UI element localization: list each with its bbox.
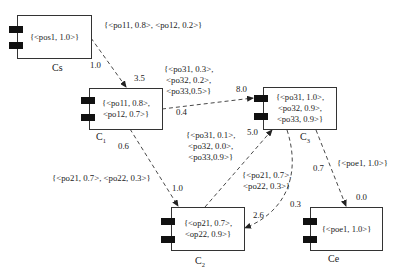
port-icon [303,218,317,225]
edge-c2-c3-to-weight: 5.0 [247,127,258,138]
edge-c3-c2-from-weight: 0.3 [290,199,301,210]
edge-c1-c2-annotation: {<po21, 0.7>, <po22, 0.3>} [52,173,151,184]
port-icon [9,26,23,33]
edge-cs-c1-annotation: {<po11, 0.8>, <po12, 0.2>} [104,20,202,31]
port-icon [81,114,95,121]
component-sub: 2 [202,261,205,268]
component-c1[interactable]: {<po11, 0.8>, <po12, 0.7>} [89,88,163,130]
annotation-line: <po22, 0.3>} [242,181,291,192]
edge-cs-c1-to-weight: 3.5 [134,73,145,84]
port-icon [81,97,95,104]
component-sub: 1 [103,137,106,144]
annotation-line: <po33,0.5>} [164,86,213,97]
component-name: C [300,131,307,142]
edge-c3-ce-annotation: {<poe1, 1.0>} [337,158,388,169]
component-c3-line3: <po33, 0.9>} [277,114,323,125]
port-icon [303,236,317,243]
component-sub: 3 [307,137,310,144]
component-c2-line2: <op22, 0.9>} [185,229,231,240]
edge-c2-c3-annotation: {<po31, 0.1>, <po32, 0.0>, <po33,0.9>} [186,130,235,163]
edge-c3-ce-from-weight: 0.7 [313,163,324,174]
edge-c3-ce-to-weight: 0.0 [356,192,367,203]
component-cs-label: Cs [52,62,63,73]
edge-c1-c3-from-weight: 0.4 [176,107,187,118]
component-c2-line1: {<op21, 0.7>, [184,218,232,229]
edge-c3-c2-annotation: {<po21, 0.7>, <po22, 0.3>} [242,170,291,192]
port-icon [254,95,268,102]
component-cs-content: {<pos1, 1.0>} [30,32,79,43]
component-cs[interactable]: {<pos1, 1.0>} [17,15,92,59]
component-c3-label: C3 [300,131,310,144]
component-c3-line2: <po32, 0.9>, [278,103,322,114]
component-c2[interactable]: {<op21, 0.7>, <op22, 0.9>} [171,207,245,251]
edge-c1-c3-annotation: {<po31, 0.3>, <po32, 0.2>, <po33,0.5>} [164,64,213,97]
component-c1-line1: {<po11, 0.8>, [102,98,150,109]
component-c1-line2: <po12, 0.7>} [103,109,149,120]
component-c2-label: C2 [195,255,205,268]
port-icon [9,42,23,49]
component-c3-line1: {<po31, 1.0>, [276,92,324,103]
component-c3[interactable]: {<po31, 1.0>, <po32, 0.9>, <po33, 0.9>} [263,87,337,130]
annotation-line: {<po31, 0.3>, [164,64,213,75]
port-icon [254,113,268,120]
component-name: Cs [52,62,63,73]
annotation-line: {<po31, 0.1>, [186,130,235,141]
edge-c1-c2-to-weight: 1.0 [172,183,183,194]
edge-c3-c2-to-weight: 2.6 [253,210,264,221]
port-icon [161,236,175,243]
component-name: C [195,255,202,266]
edge-c1-c3-to-weight: 8.0 [236,84,247,95]
annotation-line: <po32, 0.2>, [164,75,213,86]
edge-c1-c2-from-weight: 0.6 [118,141,129,152]
component-ce[interactable]: {<poe1, 1.0>} [310,207,383,251]
edge-cs-c1-from-weight: 1.0 [90,60,101,71]
annotation-line: {<po21, 0.7>, [242,170,291,181]
component-ce-label: Ce [328,253,339,264]
annotation-line: <po32, 0.0>, [186,141,235,152]
component-c1-label: C1 [96,131,106,144]
annotation-line: <po33,0.9>} [186,152,235,163]
port-icon [161,218,175,225]
component-ce-content: {<poe1, 1.0>} [322,224,372,235]
edge-c1-c2 [130,129,178,206]
component-name: Ce [328,253,339,264]
component-name: C [96,131,103,142]
